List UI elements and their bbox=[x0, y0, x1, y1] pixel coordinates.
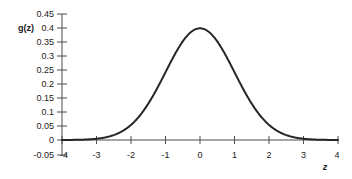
y-tick-label-0.05: 0.05 bbox=[36, 121, 54, 131]
chart-figure: 0.45 0.4 0.35 0.3 0.25 0.2 0.15 0.1 0.05… bbox=[0, 0, 352, 179]
y-tick-label-0.25: 0.25 bbox=[36, 65, 54, 75]
y-tick-label-0.4: 0.4 bbox=[41, 23, 54, 33]
y-tick-label-0.2: 0.2 bbox=[41, 79, 54, 89]
x-tick-label-2: 2 bbox=[266, 150, 271, 160]
x-axis-label: z bbox=[322, 162, 328, 172]
y-tick-label-neg0.05: -0.05 bbox=[33, 150, 54, 160]
x-tick-label-0: 0 bbox=[197, 150, 202, 160]
x-tick-label-3: 3 bbox=[301, 150, 306, 160]
y-tick-label-0.35: 0.35 bbox=[36, 37, 54, 47]
y-tick-label-0.45: 0.45 bbox=[36, 9, 54, 19]
x-tick-label-4: 4 bbox=[334, 150, 339, 160]
x-tick-label-1: 1 bbox=[232, 150, 237, 160]
y-axis-label: g(z) bbox=[18, 23, 34, 33]
x-tick-label-neg3: -3 bbox=[92, 150, 100, 160]
y-tick-label-0.1: 0.1 bbox=[41, 107, 54, 117]
x-tick-label-neg2: -2 bbox=[127, 150, 135, 160]
x-tick-label-neg1: -1 bbox=[161, 150, 169, 160]
y-tick-label-0: 0 bbox=[49, 135, 54, 145]
normal-distribution-chart: 0.45 0.4 0.35 0.3 0.25 0.2 0.15 0.1 0.05… bbox=[0, 0, 352, 179]
y-tick-label-0.3: 0.3 bbox=[41, 51, 54, 61]
x-tick-label-neg4: -4 bbox=[60, 150, 68, 160]
y-tick-label-0.15: 0.15 bbox=[36, 93, 54, 103]
